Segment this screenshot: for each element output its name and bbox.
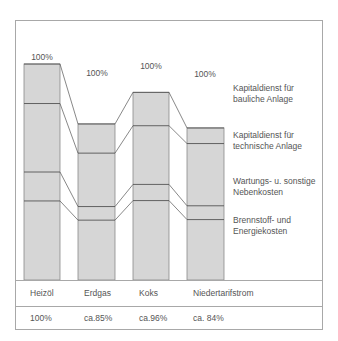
value-label-erdgas: ca.85% — [84, 313, 112, 323]
legend-kapitaldienst-technische-anlage: Kapitaldienst für technische Anlage — [233, 130, 302, 152]
segment-connector-line — [115, 126, 133, 153]
bar-total-label-niedertarifstrom: 100% — [185, 69, 225, 79]
category-row-divider — [15, 280, 323, 281]
legend-line: Nebenkosten — [233, 187, 315, 198]
value-label-heizoel: 100% — [30, 313, 52, 323]
legend-line: Wartungs- u. sonstige — [233, 176, 315, 187]
legend-line: bauliche Anlage — [233, 94, 294, 105]
segment-connector-line — [115, 92, 133, 124]
legend-line: technische Anlage — [233, 141, 302, 152]
segment-connector-line — [169, 92, 187, 128]
segment-connector-line — [60, 201, 78, 220]
legend-line: Energiekosten — [233, 226, 291, 237]
legend-brennstoff-energiekosten: Brennstoff- und Energiekosten — [233, 215, 291, 237]
segment-connector-line — [169, 126, 187, 144]
bar-total-label-heizoel: 100% — [22, 52, 62, 62]
bar-koks — [133, 92, 169, 280]
legend-line: Brennstoff- und — [233, 215, 291, 226]
category-label-heizoel: Heizöl — [30, 288, 54, 298]
bar-total-label-erdgas: 100% — [77, 68, 117, 78]
value-label-niedertarifstrom: ca. 84% — [193, 313, 224, 323]
bar-total-label-koks: 100% — [131, 61, 171, 71]
category-label-erdgas: Erdgas — [84, 288, 111, 298]
segment-connector-line — [169, 201, 187, 220]
value-row-divider — [15, 306, 323, 307]
legend-wartungs-nebenkosten: Wartungs- u. sonstige Nebenkosten — [233, 176, 315, 198]
legend-line: Kapitaldienst für — [233, 130, 302, 141]
segment-connector-line — [169, 184, 187, 205]
legend-line: Kapitaldienst für — [233, 83, 294, 94]
category-label-niedertarifstrom: Niedertarifstrom — [193, 288, 253, 298]
legend-kapitaldienst-bauliche-anlage: Kapitaldienst für bauliche Anlage — [233, 83, 294, 105]
segment-connector-line — [60, 172, 78, 207]
segment-connector-line — [60, 104, 78, 154]
value-label-koks: ca.96% — [139, 313, 167, 323]
segment-connector-line — [60, 64, 78, 124]
category-label-koks: Koks — [139, 288, 158, 298]
bar-niedertarifstrom — [187, 128, 224, 280]
bar-erdgas — [78, 124, 115, 280]
